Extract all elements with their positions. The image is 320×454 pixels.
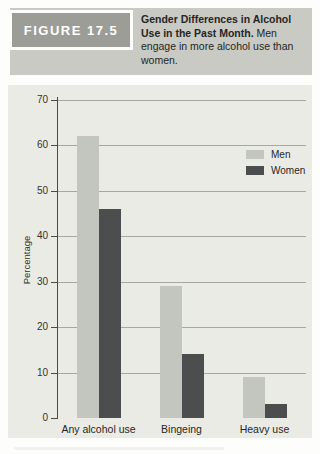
women-bar-2 <box>265 404 287 418</box>
category-label-0: Any alcohol use <box>61 423 135 435</box>
gridline-70 <box>57 100 306 101</box>
figure-caption: Gender Differences in Alcohol Use in the… <box>141 13 307 67</box>
men-bar-2 <box>243 377 265 418</box>
y-tick-20 <box>51 327 57 328</box>
men-bar-0 <box>77 136 99 418</box>
y-tick-label-20: 20 <box>12 321 48 333</box>
figure-page: Gender Differences in Alcohol Use in the… <box>0 0 320 454</box>
y-tick-label-70: 70 <box>12 94 48 106</box>
legend-item-men: Men <box>246 146 305 162</box>
y-tick-70 <box>51 100 57 101</box>
plot-area: 010203040506070Any alcohol useBingeingHe… <box>8 85 312 438</box>
legend: Men Women <box>246 146 305 178</box>
y-axis-label: Percentage <box>21 225 33 295</box>
figure-number-label: FIGURE 17.5 <box>24 23 119 38</box>
cutoff-text-artifact <box>14 447 224 450</box>
y-tick-label-10: 10 <box>12 367 48 379</box>
y-tick-50 <box>51 191 57 192</box>
legend-label-men: Men <box>271 149 290 160</box>
y-tick-60 <box>51 145 57 146</box>
y-tick-label-60: 60 <box>12 139 48 151</box>
women-bar-0 <box>99 209 121 418</box>
figure-number-box: FIGURE 17.5 <box>9 10 133 50</box>
category-label-2: Heavy use <box>240 423 290 435</box>
chart-panel: 010203040506070Any alcohol useBingeingHe… <box>8 85 312 438</box>
women-swatch <box>246 166 264 175</box>
y-tick-40 <box>51 236 57 237</box>
legend-label-women: Women <box>271 165 305 176</box>
y-tick-0 <box>51 418 57 419</box>
y-tick-30 <box>51 282 57 283</box>
men-swatch <box>246 150 264 159</box>
y-axis-line <box>57 97 58 419</box>
legend-item-women: Women <box>246 162 305 178</box>
y-tick-10 <box>51 373 57 374</box>
category-label-1: Bingeing <box>161 423 202 435</box>
y-tick-label-50: 50 <box>12 185 48 197</box>
women-bar-1 <box>182 354 204 418</box>
y-tick-label-0: 0 <box>12 412 48 424</box>
men-bar-1 <box>160 286 182 418</box>
